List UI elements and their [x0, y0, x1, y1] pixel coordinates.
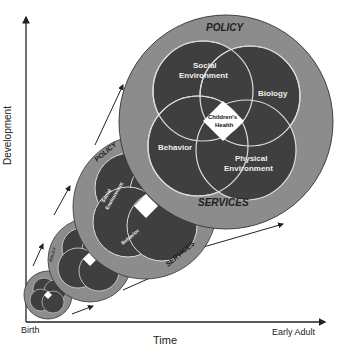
y-axis-label: Development — [2, 106, 13, 165]
main-social-label-1: Social — [193, 61, 217, 70]
x-axis-label: Time — [153, 334, 177, 346]
main-biology-label: Biology — [258, 89, 287, 98]
main-physical-label-2: Environment — [224, 164, 273, 173]
x-axis-start-label: Birth — [21, 325, 40, 335]
x-axis-end-label: Early Adult — [272, 327, 315, 337]
main-services-label: SERVICES — [198, 197, 249, 208]
main-social-label-2: Environment — [179, 71, 228, 80]
life-course-diagram: POLICY POLICY SERVICES Social Environmen… — [0, 0, 337, 354]
main-center-label-1: Children's — [208, 114, 237, 120]
main-center-label-2: Health — [215, 122, 233, 128]
main-physical-label-1: Physical — [235, 154, 267, 163]
main-policy-label: POLICY — [206, 22, 243, 33]
main-behavior-label: Behavior — [158, 143, 192, 152]
